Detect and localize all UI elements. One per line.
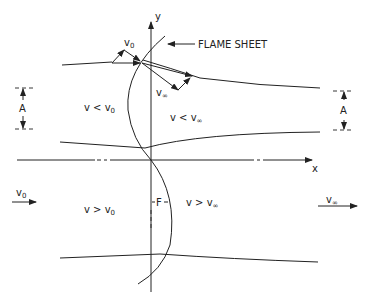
v0-vector-label: v0 bbox=[124, 37, 134, 50]
outlet-flow-arrow: v∞ bbox=[318, 194, 357, 207]
lower-streamline bbox=[60, 254, 318, 262]
vinf-vector-triangle: v∞ bbox=[142, 63, 192, 100]
y-axis-label: y bbox=[155, 11, 161, 22]
region-lower-left-label: v > v0 bbox=[84, 204, 115, 217]
vinf-vector-label: v∞ bbox=[156, 87, 168, 100]
middle-streamline bbox=[60, 132, 320, 148]
amplitude-marker-right: A bbox=[333, 91, 354, 130]
svg-text:F: F bbox=[156, 197, 162, 208]
x-axis: x bbox=[17, 160, 318, 174]
svg-text:v∞: v∞ bbox=[326, 194, 338, 207]
svg-text:A: A bbox=[19, 103, 26, 114]
flame-sheet-label: FLAME SHEET bbox=[198, 39, 268, 50]
svg-text:A: A bbox=[340, 105, 347, 116]
y-axis: y bbox=[151, 11, 161, 292]
flame-sheet-diagram: y x FLAME SHEET v0 v∞ A bbox=[0, 0, 367, 299]
region-upper-right-label: v < v∞ bbox=[170, 112, 203, 125]
amplitude-marker-left: A bbox=[15, 88, 34, 129]
upper-streamline bbox=[62, 60, 320, 88]
region-lower-right-label: v > v∞ bbox=[186, 197, 219, 210]
v0-vector-triangle: v0 bbox=[112, 37, 140, 63]
flame-thickness-marker: F bbox=[151, 197, 168, 228]
svg-text:v0: v0 bbox=[16, 187, 26, 200]
x-axis-label: x bbox=[312, 163, 318, 174]
region-upper-left-label: v < v0 bbox=[84, 102, 115, 115]
inlet-flow-arrow: v0 bbox=[12, 187, 36, 202]
